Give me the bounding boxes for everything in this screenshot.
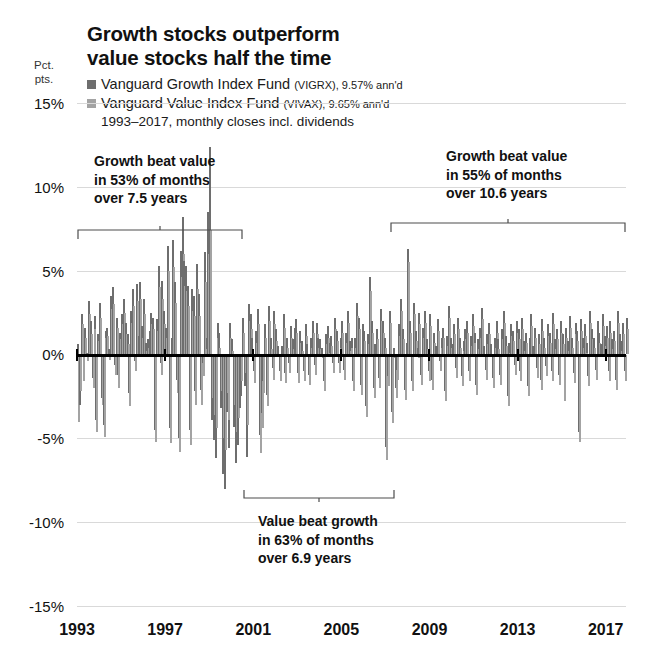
bar-value (557, 339, 559, 354)
bar-value (445, 355, 447, 402)
bar-value (324, 355, 326, 392)
x-axis-tick (605, 349, 607, 361)
x-axis-tick-label: 1997 (147, 621, 183, 639)
bar-value (467, 333, 469, 355)
bar-value (104, 355, 106, 437)
y-axis-tick-label: 10% (34, 178, 64, 195)
bar-value (153, 329, 155, 354)
bar-value (285, 355, 287, 384)
bar-value (359, 329, 361, 354)
bar-value (247, 355, 249, 425)
bar-value (372, 333, 374, 355)
bar-value (596, 355, 598, 380)
bar-value (454, 334, 456, 354)
bar-value (296, 333, 298, 355)
y-axis-tick-label: -5% (37, 430, 64, 447)
bar-value (397, 355, 399, 380)
bar-value (199, 316, 201, 355)
x-axis-tick-label: 2017 (588, 621, 624, 639)
x-axis-tick (76, 349, 78, 361)
x-axis-tick-label: 2005 (324, 621, 360, 639)
bar-value (267, 355, 269, 407)
bar-value (203, 355, 205, 377)
bar-value (443, 338, 445, 355)
legend-item-growth: Vanguard Growth Index Fund (VIGRX), 9.57… (87, 75, 507, 94)
legend-label-growth: Vanguard Growth Index Fund (101, 75, 290, 94)
bar-value (412, 355, 414, 392)
bar-value (118, 355, 120, 389)
bar-value (265, 338, 267, 355)
bar-value (93, 355, 95, 389)
bar-value (419, 324, 421, 354)
bar-value (210, 230, 212, 354)
x-axis-tick (340, 349, 342, 361)
bar-value (170, 355, 172, 444)
bar-value (284, 328, 286, 355)
bar-value (315, 355, 317, 375)
x-axis-tick-label: 1993 (59, 621, 95, 639)
bar-value (298, 355, 300, 384)
y-axis-unit-label: Pct. pts. (20, 58, 68, 87)
bar-value (456, 355, 458, 378)
bar-value (609, 355, 611, 382)
bar-value (616, 355, 618, 390)
bar-value (243, 333, 245, 355)
bracket-growth-left (77, 226, 247, 240)
bar-value (342, 333, 344, 355)
bar-value (135, 355, 137, 372)
bar-value (96, 355, 98, 432)
bar-value (195, 355, 197, 405)
bar-value (304, 355, 306, 382)
bar-value (438, 331, 440, 354)
chart-title: Growth stocks outperform value stocks ha… (87, 22, 507, 70)
bar-value (313, 333, 315, 355)
bar-value (129, 355, 131, 407)
bar-value (188, 306, 190, 355)
x-axis-tick (164, 349, 166, 361)
bar-value (421, 355, 423, 385)
bar-value (528, 355, 530, 397)
x-axis-tick (428, 349, 430, 361)
bar-value (94, 329, 96, 354)
bar-value (159, 287, 161, 354)
bar-value (430, 326, 432, 355)
bar-value (588, 355, 590, 387)
x-axis-tick-label: 2013 (500, 621, 536, 639)
bar-value (117, 328, 119, 355)
bar-value (263, 355, 265, 394)
y-axis-tick-label: 5% (42, 262, 64, 279)
bar-value (179, 355, 181, 452)
annotation-growth-left: Growth beat value in 53% of months over … (94, 152, 215, 208)
bar-value (273, 355, 275, 380)
bar-value (476, 355, 478, 395)
y-axis-tick-label: 15% (34, 95, 64, 112)
bracket-value-middle (243, 489, 399, 503)
bar-value (289, 355, 291, 373)
x-axis-tick (252, 349, 254, 361)
bar-value (228, 355, 230, 420)
bar-value (361, 355, 363, 395)
bar-value (337, 341, 339, 354)
x-axis-tick (517, 349, 519, 361)
bar-value (379, 355, 381, 389)
bar-value (625, 355, 627, 382)
bar-value (353, 355, 355, 392)
bar-value (91, 334, 93, 354)
bar-value (344, 355, 346, 380)
bar-value (410, 333, 412, 355)
bracket-growth-right (390, 219, 628, 233)
bar-value (486, 355, 488, 380)
legend-ticker-growth: (VIGRX), 9.57% ann'd (294, 78, 403, 92)
bar-value (115, 355, 117, 375)
bar-value (309, 355, 311, 385)
bar-value (574, 355, 576, 384)
bar-value (241, 355, 243, 382)
bar-value (500, 355, 502, 385)
bar-value (374, 355, 376, 399)
bar-value (405, 355, 407, 400)
bar-value (364, 341, 366, 354)
bar-value (564, 355, 566, 402)
bar-value (194, 316, 196, 355)
bar-value (552, 355, 554, 382)
bar-value (82, 324, 84, 354)
